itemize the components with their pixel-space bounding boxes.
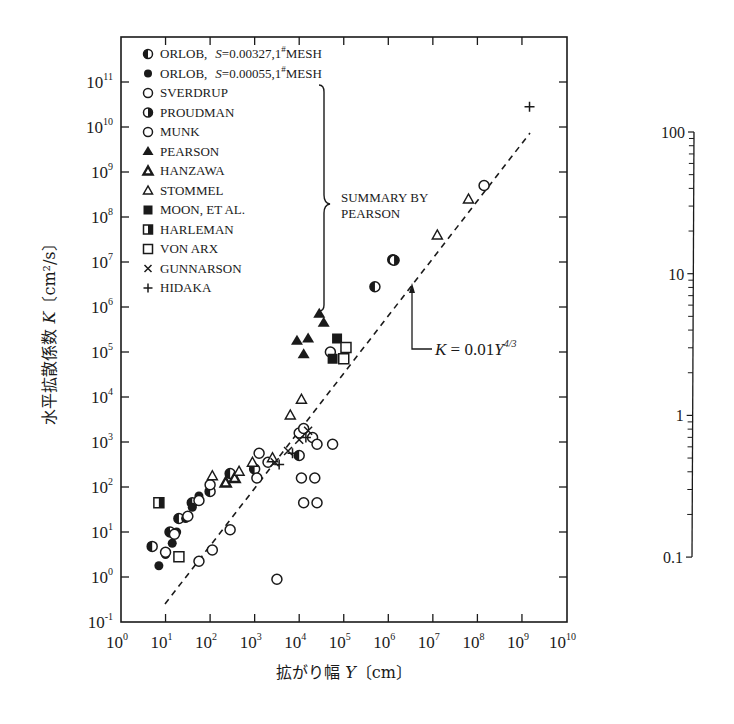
legend-item: HIDAKA [144,280,212,295]
legend-item: VON ARX [144,241,219,256]
right-axis-label: 10 [668,266,684,283]
y-tick-label: 108 [91,206,113,227]
legend-item: STOMMEL [144,183,224,198]
right-axis-label: 1 [676,407,684,424]
x-tick-label: 104 [284,631,306,652]
series-harleman [154,498,164,508]
y-tick-label: 106 [91,296,113,317]
legend-item: PEARSON [143,144,220,159]
y-tick-label: 1011 [86,71,113,92]
legend-item: MUNK [144,124,201,139]
y-tick-label: 109 [91,161,113,182]
svg-text:GUNNARSON: GUNNARSON [160,261,242,276]
legend: ORLOB,S=0.00327,1#MESHORLOB,S=0.00055,1#… [143,44,322,295]
svg-text:MUNK: MUNK [160,124,200,139]
x-tick-label: 102 [195,631,217,652]
svg-text:PROUDMAN: PROUDMAN [160,105,235,120]
x-tick-label: 100 [106,631,128,652]
y-tick-label: 10-1 [88,611,113,632]
y-tick-label: 104 [91,386,113,407]
x-axis-title: 拡がり幅 Y〔cm〕 [276,663,412,682]
legend-brace [319,85,330,311]
svg-text:MOON, ET AL.: MOON, ET AL. [160,202,245,217]
legend-item: ORLOB,S=0.00055,1#MESH [144,64,322,81]
x-tick-label: 1010 [549,631,576,652]
y-axis-title: 水平拡散係数 K〔cm²/s〕 [40,235,59,424]
x-tick-label: 107 [418,631,440,652]
svg-text:PEARSON: PEARSON [160,144,220,159]
fit-annotation: K = 0.01Y4/3 [409,283,516,359]
summary-label-2: PEARSON [341,206,401,221]
right-axis-label: 100 [661,124,685,141]
x-tick-label: 106 [373,631,395,652]
y-tick-label: 105 [91,341,113,362]
series-orlob-s-0-00327-1-mesh [147,255,398,552]
series-pearson [291,308,330,359]
svg-text:ORLOB,S=0.00327,1#MESH: ORLOB,S=0.00327,1#MESH [160,44,322,61]
y-tick-label: 103 [91,431,113,452]
legend-item: ORLOB,S=0.00327,1#MESH [144,44,322,61]
y-tick-label: 100 [91,566,113,587]
series-munk [194,181,489,585]
svg-text:STOMMEL: STOMMEL [160,183,223,198]
series-hidaka [274,102,534,470]
legend-item: SVERDRUP [144,85,228,100]
x-tick-label: 105 [329,631,351,652]
svg-text:SVERDRUP: SVERDRUP [160,85,228,100]
x-tick-label: 109 [507,631,529,652]
legend-item: MOON, ET AL. [144,202,245,217]
summary-label-1: SUMMARY BY [341,190,429,205]
svg-text:HANZAWA: HANZAWA [160,163,225,178]
svg-text:HARLEMAN: HARLEMAN [160,222,234,237]
x-tick-label: 108 [462,631,484,652]
svg-text:VON ARX: VON ARX [160,241,219,256]
y-tick-label: 107 [91,251,113,272]
svg-text:ORLOB,S=0.00055,1#MESH: ORLOB,S=0.00055,1#MESH [160,64,322,81]
svg-text:HIDAKA: HIDAKA [160,280,212,295]
x-tick-label: 103 [240,631,262,652]
diffusion-chart: 1001011021031041051061071081091010 10-11… [0,0,734,724]
y-tick-label: 101 [91,521,113,542]
legend-item: PROUDMAN [144,105,236,120]
y-tick-label: 102 [91,476,113,497]
legend-item: HANZAWA [144,163,226,178]
right-axis-label: 0.1 [663,549,683,566]
legend-item: HARLEMAN [144,222,235,237]
right-log-axis: 1001010.1 [661,124,694,566]
x-tick-label: 101 [151,631,173,652]
y-tick-label: 1010 [86,116,113,137]
legend-item: GUNNARSON [145,261,243,276]
svg-text:K = 0.01Y4/3: K = 0.01Y4/3 [434,338,516,359]
series-proudman [389,255,399,265]
